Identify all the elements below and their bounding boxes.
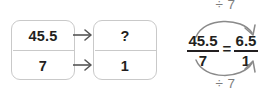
source-ratio-top-value: 45.5 — [12, 21, 74, 51]
equation-group: ÷ 7 45.5 7 = 6.5 1 ÷ 7 — [182, 0, 269, 97]
right-fraction-numerator: 6.5 — [233, 33, 259, 49]
target-ratio-top-value: ? — [94, 21, 156, 51]
left-fraction-numerator: 45.5 — [186, 33, 220, 49]
top-operation-label: ÷ 7 — [182, 0, 269, 12]
source-ratio-box: 45.5 7 — [11, 20, 75, 80]
diagram-canvas: 45.5 7 ? 1 ÷ 7 45.5 7 — [0, 0, 269, 97]
equals-sign: = — [220, 40, 234, 57]
target-ratio-box: ? 1 — [93, 20, 157, 80]
target-ratio-bottom-value: 1 — [94, 51, 156, 81]
source-ratio-bottom-value: 7 — [12, 51, 74, 81]
bottom-operation-label: ÷ 7 — [182, 76, 269, 91]
